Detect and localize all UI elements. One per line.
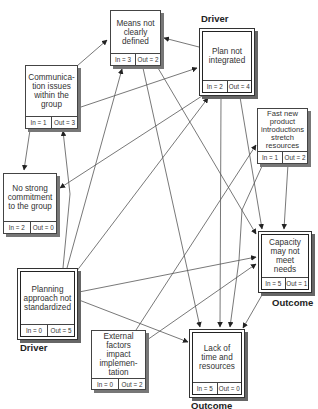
node-label: Fast newproductintroductionsstretchresou… <box>258 109 307 151</box>
node-label: Capacitymay notmeet needs <box>262 235 308 277</box>
edge-capacity-lack <box>243 295 262 328</box>
in-count: In = 5 <box>262 278 285 289</box>
node-counts: In = 2 Out = 0 <box>4 221 56 233</box>
node-lack-of-time-and-resources[interactable]: Lack oftime andresources In = 5 Out = 0 <box>189 329 245 398</box>
in-count: In = 1 <box>26 117 51 128</box>
node-label: Means notclearlydefined <box>111 11 160 53</box>
node-external-factors[interactable]: Externalfactors impactimplemen-tation In… <box>91 330 146 390</box>
edge-planning-comm <box>63 131 70 268</box>
node-label: Externalfactors impactimplemen-tation <box>92 331 145 378</box>
node-plan-not-integrated[interactable]: Plan notintegrated In = 2 Out = 4 <box>199 28 255 96</box>
out-count: Out = 0 <box>217 383 242 394</box>
edge-plan-means <box>164 38 199 47</box>
edge-planning-capacity <box>79 257 256 292</box>
node-label: Lack oftime andresources <box>193 333 241 382</box>
node-counts: In = 1 Out = 3 <box>26 116 77 128</box>
node-fast-new-product[interactable]: Fast newproductintroductionsstretchresou… <box>257 108 308 164</box>
out-count: Out = 1 <box>285 278 309 289</box>
node-planning-approach-not-standardized[interactable]: Planningapproach notstandardized In = 0 … <box>17 268 78 340</box>
in-count: In = 3 <box>111 54 135 65</box>
node-counts: In = 0 Out = 2 <box>92 378 145 390</box>
in-count: In = 0 <box>21 325 47 336</box>
node-counts: In = 1 Out = 2 <box>258 151 307 163</box>
role-label-outcome-lack: Outcome <box>191 400 232 409</box>
node-label: Plan notintegrated <box>203 32 251 80</box>
node-counts: In = 5 Out = 0 <box>193 382 241 394</box>
node-capacity-may-not-meet-needs[interactable]: Capacitymay notmeet needs In = 5 Out = 1 <box>258 231 312 293</box>
out-count: Out = 2 <box>282 152 307 163</box>
edge-comm-plan <box>78 68 197 108</box>
edge-comm-means <box>77 40 107 66</box>
node-label: No strongcommitmentto the group <box>4 174 56 221</box>
out-count: Out = 2 <box>118 379 145 390</box>
out-count: Out = 5 <box>47 325 74 336</box>
edge-external-fast <box>136 145 256 330</box>
node-counts: In = 3 Out = 2 <box>111 53 160 65</box>
edge-planning-plan <box>76 98 208 272</box>
out-count: Out = 2 <box>135 54 160 65</box>
in-count: In = 2 <box>203 81 227 92</box>
role-label-driver-plan: Driver <box>201 13 228 24</box>
out-count: Out = 0 <box>30 222 57 233</box>
edge-fast-capacity <box>284 164 288 229</box>
edge-means-lack <box>143 68 200 327</box>
node-counts: In = 2 Out = 4 <box>203 80 251 92</box>
role-label-outcome-capacity: Outcome <box>272 297 313 308</box>
in-count: In = 2 <box>4 222 30 233</box>
in-count: In = 5 <box>193 383 217 394</box>
node-no-strong-commitment[interactable]: No strongcommitmentto the group In = 2 O… <box>3 173 57 234</box>
node-communication-issues[interactable]: Communica-tion issueswithin thegroup In … <box>25 65 78 129</box>
edge-plan-lack <box>220 97 221 327</box>
out-count: Out = 4 <box>227 81 252 92</box>
in-count: In = 0 <box>92 379 118 390</box>
node-counts: In = 5 Out = 1 <box>262 277 308 289</box>
edge-comm-commit <box>24 130 30 170</box>
node-means-not-clearly-defined[interactable]: Means notclearlydefined In = 3 Out = 2 <box>110 10 161 66</box>
node-label: Planningapproach notstandardized <box>21 272 74 324</box>
node-label: Communica-tion issueswithin thegroup <box>26 66 77 116</box>
in-count: In = 1 <box>258 152 282 163</box>
node-counts: In = 0 Out = 5 <box>21 324 74 336</box>
edge-plan-commit <box>60 96 202 188</box>
out-count: Out = 3 <box>51 117 77 128</box>
role-label-driver-planning: Driver <box>20 342 47 353</box>
